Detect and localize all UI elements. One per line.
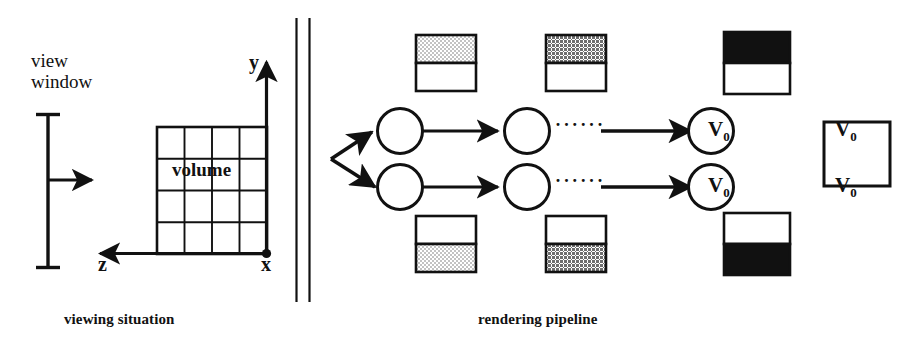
- tile-bottom-stage-3: [724, 213, 790, 275]
- pipeline-node-bottom-stage-2: [505, 165, 550, 210]
- panel-divider: [292, 14, 316, 306]
- view-window-label-line1: view: [31, 50, 92, 71]
- right-panel-caption: rendering pipeline: [478, 312, 597, 328]
- pipeline-ellipsis-top: ······: [555, 116, 605, 135]
- tile-bottom-stage-1: [416, 216, 476, 272]
- pipeline-node-top-stage-2: [505, 109, 550, 154]
- figure-root: view window volume y z x viewing situati…: [0, 0, 900, 359]
- pipeline-input-arrow-top: [331, 132, 372, 159]
- viewing-situation-graphic: [0, 0, 300, 320]
- view-window-label-line2: window: [31, 71, 92, 92]
- output-image-tile: [824, 122, 890, 186]
- rendering-pipeline-graphic: [320, 0, 900, 320]
- tile-bottom-stage-2: [546, 216, 606, 272]
- tile-top-stage-2: [546, 35, 606, 91]
- pipeline-node-bottom-stage-3: [689, 165, 734, 210]
- view-window-bar: [36, 114, 60, 268]
- axis-label-y: y: [249, 52, 259, 73]
- axis-label-x: x: [261, 254, 271, 275]
- pipeline-node-top-stage-3: [689, 109, 734, 154]
- axis-label-z: z: [98, 254, 107, 275]
- pipeline-node-bottom-stage-1: [378, 165, 423, 210]
- left-panel-caption: viewing situation: [64, 312, 174, 328]
- volume-grid: [157, 127, 267, 254]
- volume-label: volume: [172, 160, 231, 180]
- pipeline-node-top-stage-1: [378, 109, 423, 154]
- tile-top-stage-1: [416, 35, 476, 91]
- pipeline-ellipsis-bottom: ······: [555, 172, 605, 191]
- pipeline-input-arrow-bottom: [331, 159, 375, 187]
- view-window-label: view window: [31, 50, 92, 93]
- tile-top-stage-3: [724, 32, 790, 94]
